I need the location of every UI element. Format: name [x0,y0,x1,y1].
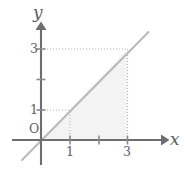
x-axis-label: x [170,131,180,148]
y-tick-label-3: 3 [30,43,38,56]
y-axis-arrowhead [36,22,47,31]
graph-figure: y x O 1 3 1 3 [0,0,185,172]
x-axis-arrowhead [161,135,170,146]
y-tick-label-1: 1 [30,104,38,117]
graph-canvas [0,0,185,172]
origin-label: O [29,123,39,136]
y-axis-label: y [33,4,43,21]
x-tick-label-1: 1 [66,146,74,159]
x-tick-label-3: 3 [123,146,131,159]
